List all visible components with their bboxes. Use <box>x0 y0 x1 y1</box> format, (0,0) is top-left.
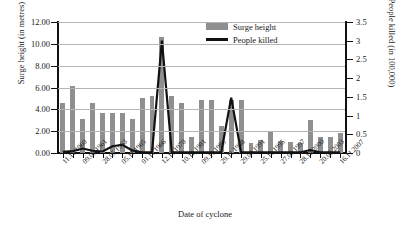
y-axis-right-title: People killed (in 100,000) <box>387 0 397 108</box>
gridline <box>58 22 345 23</box>
y-tick-label-left: 0.00 <box>6 149 50 157</box>
y-tick-left <box>51 109 57 110</box>
plot-area <box>58 22 345 153</box>
legend-label-people-killed: People killed <box>233 35 278 45</box>
y-tick-label-left: 6.00 <box>6 84 50 92</box>
y-tick-label-right: 3.5 <box>356 18 376 26</box>
gridline <box>58 66 345 67</box>
y-tick-left <box>51 88 57 89</box>
y-tick-right <box>347 22 353 23</box>
gridline <box>58 88 345 89</box>
y-tick-right <box>347 59 353 60</box>
legend: Surge height People killed <box>206 20 278 46</box>
y-tick-left <box>51 44 57 45</box>
legend-item-surge-height: Surge height <box>206 20 278 33</box>
legend-line-swatch-icon <box>206 38 228 41</box>
gridline <box>58 131 345 132</box>
y-tick-left <box>51 131 57 132</box>
y-tick-label-left: 2.00 <box>6 127 50 135</box>
y-tick-left <box>51 66 57 67</box>
legend-label-surge-height: Surge height <box>233 22 276 32</box>
y-tick-label-right: 1 <box>356 112 376 120</box>
y-tick-left <box>51 22 57 23</box>
gridline <box>58 44 345 45</box>
y-tick-label-right: 2.5 <box>356 55 376 63</box>
legend-bar-swatch-icon <box>206 23 228 30</box>
y-tick-label-right: 3 <box>356 37 376 45</box>
legend-item-people-killed: People killed <box>206 33 278 46</box>
gridline <box>58 109 345 110</box>
y-tick-right <box>347 116 353 117</box>
y-tick-right <box>347 41 353 42</box>
y-tick-label-left: 10.00 <box>6 40 50 48</box>
cyclone-surge-chart: Surge height (in metres) People killed (… <box>0 0 410 226</box>
y-tick-label-right: 1.5 <box>356 93 376 101</box>
y-tick-label-left: 8.00 <box>6 62 50 70</box>
x-axis-title: Date of cyclone <box>0 209 410 219</box>
y-axis-left-title: Surge height (in metres) <box>16 0 26 108</box>
y-tick-right <box>347 78 353 79</box>
y-tick-label-left: 12.00 <box>6 18 50 26</box>
y-tick-left <box>51 153 57 154</box>
y-tick-right <box>347 97 353 98</box>
y-tick-label-right: 2 <box>356 74 376 82</box>
y-tick-label-left: 4.00 <box>6 105 50 113</box>
y-tick-right <box>347 134 353 135</box>
